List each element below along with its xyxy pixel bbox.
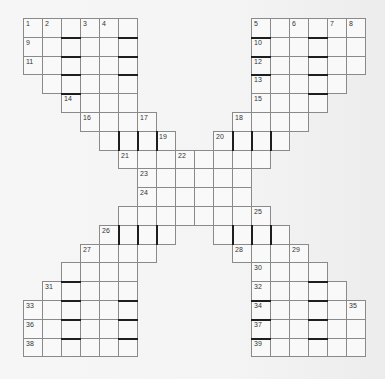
grid-cell[interactable]: 33 — [23, 300, 43, 320]
grid-cell[interactable] — [118, 131, 138, 151]
grid-cell[interactable] — [308, 93, 328, 113]
grid-cell[interactable] — [289, 262, 309, 282]
grid-cell[interactable] — [289, 281, 309, 301]
grid-cell[interactable] — [61, 262, 81, 282]
grid-cell[interactable]: 8 — [346, 18, 366, 38]
grid-cell[interactable]: 4 — [99, 18, 119, 38]
grid-cell[interactable]: 6 — [289, 18, 309, 38]
grid-cell[interactable]: 2 — [42, 18, 62, 38]
grid-cell[interactable] — [61, 56, 81, 75]
grid-cell[interactable] — [194, 150, 214, 169]
grid-cell[interactable]: 23 — [137, 168, 157, 188]
grid-cell[interactable] — [156, 187, 176, 207]
grid-cell[interactable] — [270, 281, 290, 301]
grid-cell[interactable] — [118, 319, 138, 339]
grid-cell[interactable]: 22 — [175, 150, 195, 169]
grid-cell[interactable] — [308, 338, 328, 357]
grid-cell[interactable] — [118, 37, 138, 57]
grid-cell[interactable] — [327, 74, 347, 94]
grid-cell[interactable] — [327, 319, 347, 339]
grid-cell[interactable] — [99, 300, 119, 320]
grid-cell[interactable] — [42, 338, 62, 357]
grid-cell[interactable] — [251, 150, 271, 169]
grid-cell[interactable] — [251, 112, 271, 132]
grid-cell[interactable]: 29 — [289, 244, 309, 263]
grid-cell[interactable] — [232, 206, 252, 226]
grid-cell[interactable] — [137, 150, 157, 169]
grid-cell[interactable] — [61, 281, 81, 301]
grid-cell[interactable] — [175, 206, 195, 226]
grid-cell[interactable] — [80, 56, 100, 75]
grid-cell[interactable] — [308, 300, 328, 320]
grid-cell[interactable]: 24 — [137, 187, 157, 207]
grid-cell[interactable] — [289, 37, 309, 57]
grid-cell[interactable] — [213, 168, 233, 188]
grid-cell[interactable] — [213, 187, 233, 207]
grid-cell[interactable] — [251, 225, 271, 245]
grid-cell[interactable] — [308, 37, 328, 57]
grid-cell[interactable] — [137, 131, 157, 151]
grid-cell[interactable] — [308, 281, 328, 301]
grid-cell[interactable] — [270, 338, 290, 357]
grid-cell[interactable] — [118, 262, 138, 282]
grid-cell[interactable] — [270, 74, 290, 94]
grid-cell[interactable]: 32 — [251, 281, 271, 301]
grid-cell[interactable] — [156, 168, 176, 188]
grid-cell[interactable] — [99, 281, 119, 301]
grid-cell[interactable]: 25 — [251, 206, 271, 226]
grid-cell[interactable] — [99, 338, 119, 357]
grid-cell[interactable] — [327, 37, 347, 57]
grid-cell[interactable] — [80, 338, 100, 357]
grid-cell[interactable]: 10 — [251, 37, 271, 57]
grid-cell[interactable]: 3 — [80, 18, 100, 38]
grid-cell[interactable] — [346, 319, 366, 339]
grid-cell[interactable]: 1 — [23, 18, 43, 38]
grid-cell[interactable]: 28 — [232, 244, 252, 263]
grid-cell[interactable] — [346, 338, 366, 357]
grid-cell[interactable] — [175, 168, 195, 188]
grid-cell[interactable] — [194, 206, 214, 226]
grid-cell[interactable] — [232, 187, 252, 207]
grid-cell[interactable] — [118, 93, 138, 113]
grid-cell[interactable] — [289, 300, 309, 320]
grid-cell[interactable]: 20 — [213, 131, 233, 151]
grid-cell[interactable] — [270, 18, 290, 38]
grid-cell[interactable] — [289, 56, 309, 75]
grid-cell[interactable]: 5 — [251, 18, 271, 38]
grid-cell[interactable]: 16 — [80, 112, 100, 132]
grid-cell[interactable] — [346, 56, 366, 75]
grid-cell[interactable] — [42, 37, 62, 57]
grid-cell[interactable] — [327, 338, 347, 357]
grid-cell[interactable]: 12 — [251, 56, 271, 75]
grid-cell[interactable] — [270, 93, 290, 113]
grid-cell[interactable]: 26 — [99, 225, 119, 245]
grid-cell[interactable] — [270, 112, 290, 132]
grid-cell[interactable] — [270, 262, 290, 282]
grid-cell[interactable] — [175, 187, 195, 207]
grid-cell[interactable] — [80, 281, 100, 301]
grid-cell[interactable] — [80, 300, 100, 320]
grid-cell[interactable] — [99, 262, 119, 282]
grid-cell[interactable] — [156, 150, 176, 169]
grid-cell[interactable] — [308, 74, 328, 94]
grid-cell[interactable] — [327, 56, 347, 75]
grid-cell[interactable] — [99, 37, 119, 57]
grid-cell[interactable] — [99, 244, 119, 263]
grid-cell[interactable] — [270, 244, 290, 263]
grid-cell[interactable] — [289, 319, 309, 339]
grid-cell[interactable] — [61, 37, 81, 57]
grid-cell[interactable] — [156, 225, 176, 245]
grid-cell[interactable] — [251, 131, 271, 151]
grid-cell[interactable] — [99, 74, 119, 94]
grid-cell[interactable] — [99, 93, 119, 113]
grid-cell[interactable] — [232, 168, 252, 188]
grid-cell[interactable] — [118, 244, 138, 263]
grid-cell[interactable]: 15 — [251, 93, 271, 113]
grid-cell[interactable] — [61, 338, 81, 357]
grid-cell[interactable]: 7 — [327, 18, 347, 38]
grid-cell[interactable]: 34 — [251, 300, 271, 320]
grid-cell[interactable] — [213, 150, 233, 169]
grid-cell[interactable]: 17 — [137, 112, 157, 132]
grid-cell[interactable] — [137, 225, 157, 245]
grid-cell[interactable] — [194, 187, 214, 207]
